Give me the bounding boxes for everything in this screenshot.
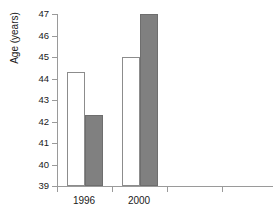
y-axis-tick bbox=[52, 143, 57, 144]
bar-1996-filled bbox=[85, 115, 103, 186]
y-axis-tick bbox=[52, 100, 57, 101]
x-axis-tick-label: 2000 bbox=[112, 196, 166, 206]
x-axis-tick bbox=[222, 187, 223, 192]
y-axis-tick-label: 44 bbox=[29, 74, 49, 84]
y-axis-tick bbox=[52, 57, 57, 58]
y-axis-tick-label: 40 bbox=[29, 160, 49, 170]
x-axis-tick bbox=[167, 187, 168, 192]
y-axis-tick-label: 41 bbox=[29, 138, 49, 148]
bar-2000-open bbox=[122, 57, 140, 186]
y-axis-tick bbox=[52, 14, 57, 15]
y-axis-tick bbox=[52, 79, 57, 80]
y-axis-line bbox=[57, 14, 58, 187]
y-axis-tick-label: 46 bbox=[29, 31, 49, 41]
y-axis-tick bbox=[52, 165, 57, 166]
bar-chart: Age (years) 474645444342414039 19962000 bbox=[0, 0, 279, 219]
y-axis-tick-label: 39 bbox=[29, 181, 49, 191]
y-axis-tick-label: 43 bbox=[29, 95, 49, 105]
x-axis-tick bbox=[57, 187, 58, 192]
x-axis-tick bbox=[112, 187, 113, 192]
y-axis-tick-label: 45 bbox=[29, 52, 49, 62]
y-axis-tick bbox=[52, 36, 57, 37]
bar-2000-filled bbox=[140, 14, 158, 186]
x-axis-tick-label: 1996 bbox=[57, 196, 111, 206]
y-axis-tick-label: 42 bbox=[29, 117, 49, 127]
y-axis-tick bbox=[52, 122, 57, 123]
y-axis-title: Age (years) bbox=[9, 0, 23, 83]
x-axis-line bbox=[57, 186, 273, 187]
y-axis-tick-label: 47 bbox=[29, 9, 49, 19]
bar-1996-open bbox=[67, 72, 85, 186]
